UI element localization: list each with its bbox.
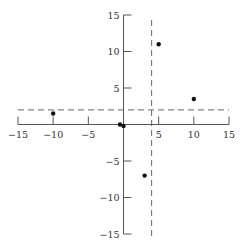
data-point [156,42,160,46]
y-tick-label: −10 [99,192,119,203]
y-tick-label: −15 [99,229,119,240]
x-tick-label: −5 [81,129,95,140]
x-tick-label: 15 [223,129,235,140]
y-tick-label: 5 [113,83,119,94]
x-tick-label: −15 [8,129,28,140]
data-point [121,124,125,128]
scatter-chart: −15−10−551015 15105−5−10−15 [0,0,245,250]
data-point [51,111,55,115]
data-point [142,173,146,177]
y-tick-label: 15 [107,10,119,21]
x-tick-label: −10 [43,129,63,140]
data-point [192,97,196,101]
x-axis-ticks: −15−10−551015 [8,117,235,140]
x-tick-label: 5 [156,129,162,140]
y-tick-label: 10 [107,46,119,57]
y-tick-label: −5 [105,156,119,167]
x-tick-label: 10 [188,129,200,140]
